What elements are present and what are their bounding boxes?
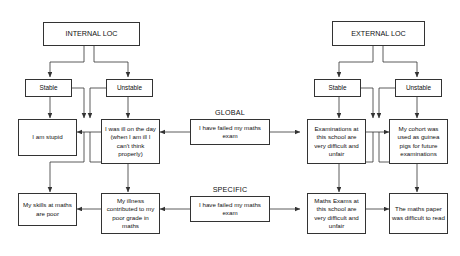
node-label: Unstable	[406, 84, 431, 92]
node-internal-unstable: Unstable	[106, 79, 153, 97]
node-internal-specific-stable: My skills at maths are poor	[18, 193, 77, 226]
node-specific-event: I have failed my maths exam	[190, 196, 270, 222]
node-external-specific-unstable: The maths paper was difficult to read	[389, 193, 448, 234]
node-label: Stable	[39, 84, 57, 92]
node-external-global-unstable: My cohort was used as guinea pigs for fu…	[389, 119, 448, 164]
node-label: I am stupid	[32, 133, 62, 141]
node-label: Unstable	[117, 84, 142, 92]
node-internal-global-stable: I am stupid	[18, 119, 77, 156]
node-label: Stable	[328, 84, 346, 92]
node-internal-specific-unstable: My illness contributed to my poor grade …	[101, 193, 160, 234]
node-external-specific-stable: Maths Exams at this school are very diff…	[307, 193, 366, 234]
attribution-style-diagram: INTERNAL LOC Stable Unstable I am stupid…	[0, 0, 460, 256]
group-label-specific: SPECIFIC	[190, 185, 270, 194]
node-external-stable: Stable	[314, 79, 361, 97]
node-label: EXTERNAL LOC	[351, 29, 405, 39]
node-label: My cohort was used as guinea pigs for fu…	[392, 125, 445, 158]
node-internal-stable: Stable	[25, 79, 72, 97]
node-label: INTERNAL LOC	[65, 29, 117, 39]
node-label: Maths Exams at this school are very diff…	[310, 197, 363, 230]
node-internal-global-unstable: I was ill on the day (when I am ill I ca…	[101, 119, 160, 164]
node-label: The maths paper was difficult to read	[392, 205, 445, 221]
node-external-unstable: Unstable	[395, 79, 442, 97]
group-label-text: GLOBAL	[215, 108, 245, 117]
node-external-loc: EXTERNAL LOC	[332, 21, 425, 46]
node-label: Examinations at this school are very dif…	[310, 125, 363, 158]
node-label: I was ill on the day (when I am ill I ca…	[104, 125, 157, 158]
group-label-text: SPECIFIC	[213, 185, 248, 194]
group-label-global: GLOBAL	[190, 108, 270, 117]
node-global-event: I have failed my maths exam	[190, 119, 270, 145]
node-label: I have failed my maths exam	[193, 201, 267, 217]
node-label: My skills at maths are poor	[21, 201, 74, 217]
node-label: I have failed my maths exam	[193, 124, 267, 140]
node-internal-loc: INTERNAL LOC	[43, 22, 140, 46]
node-label: My illness contributed to my poor grade …	[104, 197, 157, 230]
node-external-global-stable: Examinations at this school are very dif…	[307, 119, 366, 164]
